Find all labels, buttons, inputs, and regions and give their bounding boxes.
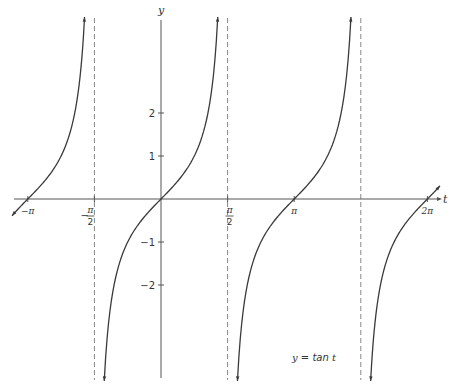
tan-chart: t y −π−π2π2π2π 21−1−2 y = tan t [0, 0, 456, 389]
y-axis-label: y [157, 4, 165, 17]
arrowhead-icon [83, 17, 86, 22]
y-tick-label: 2 [149, 108, 155, 119]
arrowhead-icon [369, 376, 372, 381]
svg-text:π: π [226, 205, 234, 215]
tan-branch [12, 17, 85, 216]
x-ticks: −π−π2π2π2π [21, 196, 434, 227]
axes: t y [14, 4, 448, 378]
svg-text:2: 2 [227, 217, 233, 227]
x-axis-arrow-icon [437, 197, 442, 201]
svg-text:2: 2 [88, 217, 94, 227]
x-tick-label: π [290, 206, 298, 216]
x-tick-label: 2π [421, 206, 435, 216]
arrowhead-icon [236, 376, 239, 381]
arrowhead-icon [349, 17, 352, 22]
x-tick-label: −π2 [80, 205, 94, 227]
y-tick-label: −2 [140, 280, 155, 291]
x-tick-label: −π [21, 206, 36, 216]
svg-text:π: π [86, 205, 94, 215]
y-tick-label: 1 [149, 151, 155, 162]
x-axis-label: t [443, 193, 448, 206]
arrowhead-icon [103, 376, 106, 381]
x-tick-label: π2 [226, 205, 234, 227]
arrowhead-icon [216, 17, 219, 22]
y-tick-label: −1 [140, 237, 155, 248]
function-annotation: y = tan t [291, 352, 337, 363]
